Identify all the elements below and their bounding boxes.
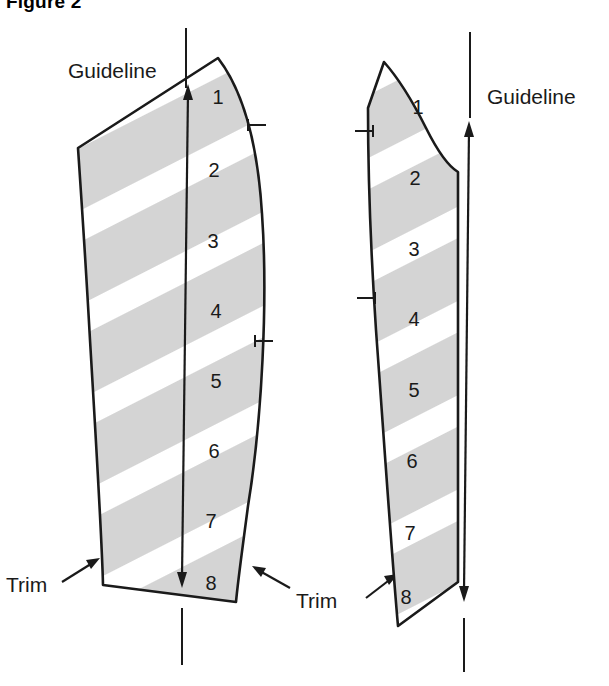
- right-grainline-arrow: [459, 121, 474, 602]
- trim-label-left: Trim: [6, 573, 47, 596]
- left-segment-number: 6: [208, 440, 219, 462]
- right-segment-number: 8: [400, 586, 411, 608]
- right-segment-number: 3: [408, 238, 419, 260]
- left-segment-number: 3: [207, 230, 218, 252]
- guideline-label-right: Guideline: [487, 85, 576, 108]
- left-segment-number: 7: [205, 510, 216, 532]
- figure-container: Figure 2: [0, 0, 609, 686]
- right-segment-number: 1: [412, 96, 423, 118]
- right-segment-number: 7: [404, 522, 415, 544]
- trim-label-right: Trim: [296, 589, 337, 612]
- left-segment-number: 5: [210, 370, 221, 392]
- left-segment-number: 8: [205, 572, 216, 594]
- pattern-diagram: 1 2 3 4 5 6 7 8 Guideline Trim Trim: [0, 0, 609, 686]
- left-segment-number: 4: [210, 300, 221, 322]
- left-segment-number: 2: [208, 159, 219, 181]
- right-segment-number: 4: [408, 308, 419, 330]
- right-segment-number: 6: [406, 450, 417, 472]
- right-segment-number: 2: [409, 167, 420, 189]
- left-segment-number: 1: [212, 86, 223, 108]
- trim-arrow-left: [62, 558, 100, 582]
- right-piece-fabric-fill: [350, 30, 609, 660]
- right-segment-number: 5: [408, 379, 419, 401]
- right-piece-notch-lower: [357, 292, 375, 304]
- guideline-label-left: Guideline: [68, 59, 157, 82]
- trim-arrow-left-piece-right: [252, 566, 290, 588]
